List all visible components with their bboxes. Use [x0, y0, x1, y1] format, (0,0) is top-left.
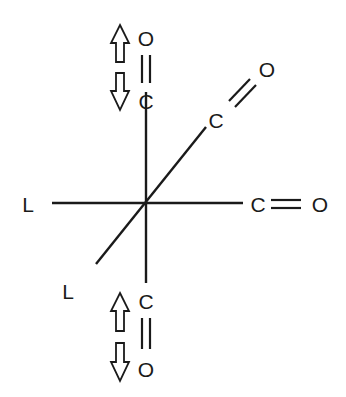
carbonyl-diagonal: C O [208, 58, 275, 132]
arrow-down-icon [111, 73, 129, 110]
arrow-down-icon [111, 343, 129, 381]
arrow-up-icon [111, 293, 129, 331]
diagram-canvas: O C C O L C O L C [0, 0, 346, 397]
right-oxygen-label: O [312, 193, 328, 216]
top-oxygen-label: O [138, 27, 154, 50]
diagonal-carbon-label: C [208, 109, 223, 132]
bottom-oxygen-label: O [138, 358, 154, 381]
carbonyl-top: O C [138, 27, 154, 113]
right-carbon-label: C [250, 193, 265, 216]
diagonal-double-bond-line-2 [235, 85, 256, 107]
left-ligand-label: L [22, 193, 34, 216]
arrow-up-icon [111, 25, 129, 62]
octahedral-carbonyl-complex-diagram: O C C O L C O L C [0, 0, 346, 397]
carbonyl-right: C O [250, 193, 328, 216]
bottom-carbon-label: C [138, 290, 153, 313]
diagonal-oxygen-label: O [259, 58, 275, 81]
top-arrows [111, 25, 129, 110]
top-carbon-label: C [138, 90, 153, 113]
bottom-arrows [111, 293, 129, 381]
diagonal-double-bond-line-1 [229, 79, 250, 101]
diagonal-axis-bond [96, 127, 206, 264]
carbonyl-bottom: C O [138, 290, 154, 381]
lower-left-ligand-label: L [62, 280, 74, 303]
